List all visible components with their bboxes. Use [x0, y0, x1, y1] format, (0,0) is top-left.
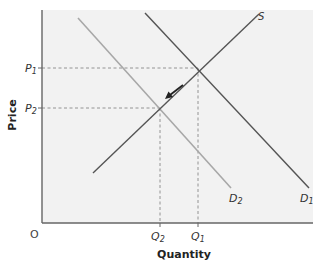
- p1-label: P1: [25, 62, 37, 76]
- q2-label: Q2: [151, 230, 165, 244]
- supply-demand-diagram: S D2 D1 P1 P2 Q2 Q1 O Quantity Price: [0, 0, 321, 266]
- plot-background: [42, 10, 313, 223]
- p2-label: P2: [25, 102, 37, 116]
- y-axis-title: Price: [6, 99, 19, 130]
- x-axis-title: Quantity: [157, 248, 211, 261]
- q1-label: Q1: [191, 230, 205, 244]
- origin-label: O: [30, 228, 39, 241]
- supply-label: S: [258, 11, 265, 22]
